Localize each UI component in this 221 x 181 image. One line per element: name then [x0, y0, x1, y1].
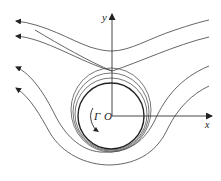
rotating-cylinder-flow-diagram: y x O Γ — [0, 0, 221, 181]
streamline-lower-2 — [16, 86, 209, 165]
streamline-upper-2 — [16, 36, 209, 71]
streamline-dividing-left — [35, 30, 112, 71]
origin-label: O — [104, 110, 112, 122]
x-axis-label: x — [204, 119, 210, 130]
y-axis-label: y — [101, 11, 107, 23]
circulation-label: Γ — [93, 110, 101, 122]
